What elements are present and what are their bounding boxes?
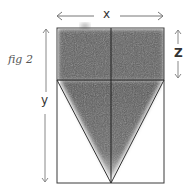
figure-caption: fig 2 xyxy=(8,53,33,66)
diagram-canvas xyxy=(0,0,194,195)
top-section-label: Z xyxy=(174,47,183,59)
height-label: y xyxy=(41,94,48,106)
width-label: x xyxy=(103,8,110,20)
